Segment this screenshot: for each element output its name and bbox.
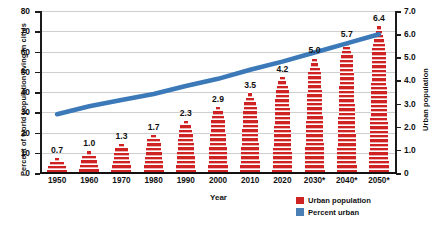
y-tick-right: 1.0 (404, 145, 430, 155)
bar (240, 92, 260, 173)
bar-value-label: 1.7 (140, 122, 168, 132)
chart-container: Percent of world population living in ci… (0, 0, 437, 226)
y-axis-left-title: Percent of world population living in ci… (19, 15, 28, 185)
bar (176, 120, 196, 173)
y-tick-left: 60 (2, 47, 30, 57)
y-tick-right: 4.0 (404, 75, 430, 85)
chart-legend: Urban population Percent urban (296, 196, 371, 219)
bar-value-label: 1.0 (75, 138, 103, 148)
x-tick-label: 1970 (103, 176, 139, 185)
bar (305, 57, 325, 173)
y-tick-left: 70 (2, 26, 30, 36)
bar (144, 134, 164, 173)
legend-item-percent-urban: Percent urban (296, 208, 371, 217)
bar-value-label: 1.3 (107, 131, 135, 141)
bar-value-label: 5.0 (301, 45, 329, 55)
x-axis-title: Year (0, 193, 437, 202)
bar (47, 157, 67, 173)
bar (337, 41, 357, 173)
bar-value-label: 5.7 (333, 29, 361, 39)
bar (208, 106, 228, 173)
y-tickmark-right (396, 104, 401, 106)
x-tick-label: 1960 (71, 176, 107, 185)
legend-label-percent-urban: Percent urban (308, 208, 359, 217)
x-tick-label: 1980 (136, 176, 172, 185)
legend-item-urban-population: Urban population (296, 196, 371, 205)
y-tickmark-right (396, 57, 401, 59)
y-tick-right: 5.0 (404, 52, 430, 62)
x-tick-label: 2050* (361, 176, 397, 185)
y-tick-right: 2.0 (404, 122, 430, 132)
legend-label-urban-population: Urban population (308, 196, 371, 205)
y-tickmark-right (396, 127, 401, 129)
y-tick-left: 80 (2, 6, 30, 16)
y-tick-left: 40 (2, 87, 30, 97)
x-tick-label: 2020 (264, 176, 300, 185)
y-axis-right-line (395, 11, 397, 174)
bar-value-label: 4.2 (268, 64, 296, 74)
y-tick-right: 7.0 (404, 6, 430, 16)
bar (272, 76, 292, 173)
y-tick-left: 20 (2, 128, 30, 138)
y-tick-right: 3.0 (404, 99, 430, 109)
y-tickmark-right (396, 150, 401, 152)
bar-value-label: 3.5 (236, 80, 264, 90)
y-tick-left: 50 (2, 67, 30, 77)
y-tick-left: 0 (2, 168, 30, 178)
y-tickmark-right (396, 11, 401, 13)
bar-value-label: 6.4 (365, 13, 393, 23)
y-tickmark-right (396, 80, 401, 82)
x-tick-label: 2040* (329, 176, 365, 185)
y-tick-right: 0 (404, 168, 430, 178)
bar (79, 150, 99, 173)
x-tick-label: 2000 (200, 176, 236, 185)
bar (369, 25, 389, 173)
x-tick-label: 1950 (39, 176, 75, 185)
bar (111, 143, 131, 173)
legend-swatch-percent-urban (296, 208, 304, 216)
y-tick-left: 30 (2, 107, 30, 117)
bar-value-label: 2.9 (204, 94, 232, 104)
x-tick-label: 1990 (168, 176, 204, 185)
bar-value-label: 2.3 (172, 108, 200, 118)
x-tick-label: 2030* (297, 176, 333, 185)
x-tick-label: 2010 (232, 176, 268, 185)
legend-swatch-urban-population (296, 197, 304, 205)
bar-value-label: 0.7 (43, 145, 71, 155)
y-tick-left: 10 (2, 148, 30, 158)
x-axis-line (40, 172, 397, 174)
y-tickmark-right (396, 34, 401, 36)
y-tick-right: 6.0 (404, 29, 430, 39)
